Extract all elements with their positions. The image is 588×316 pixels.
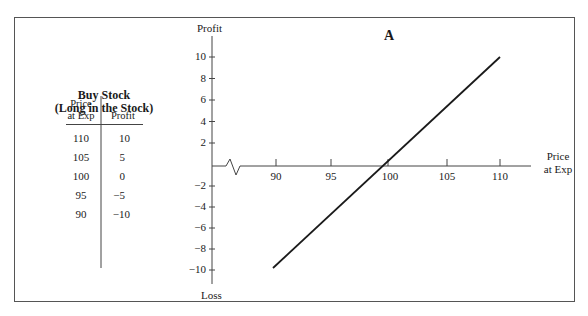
y-tick-label: 4 xyxy=(176,116,206,127)
chart-title: A xyxy=(384,29,394,43)
y-tick-label: −8 xyxy=(176,243,206,254)
y-tick-label: 10 xyxy=(176,51,206,62)
x-tick-label: 110 xyxy=(485,171,515,182)
y-tick-label: 8 xyxy=(176,73,206,84)
profit-line xyxy=(273,57,500,268)
x-axis-label-line1: Price xyxy=(540,151,576,162)
x-tick-label: 95 xyxy=(316,171,346,182)
y-tick-label: −4 xyxy=(176,201,206,212)
y-tick-label: −10 xyxy=(176,264,206,275)
x-axis xyxy=(212,159,531,175)
x-tick-label: 90 xyxy=(261,171,291,182)
y-axis-label-loss: Loss xyxy=(201,290,222,301)
y-tick-label: 2 xyxy=(176,137,206,148)
y-tick-label: −6 xyxy=(176,222,206,233)
payoff-chart xyxy=(0,0,588,316)
x-axis-label-line2: at Exp xyxy=(536,164,580,175)
x-tick-label: 105 xyxy=(432,171,462,182)
y-tick-label: −2 xyxy=(176,180,206,191)
x-tick-label: 100 xyxy=(375,171,405,182)
y-axis-label-profit: Profit xyxy=(197,23,222,34)
y-tick-label: 6 xyxy=(176,94,206,105)
